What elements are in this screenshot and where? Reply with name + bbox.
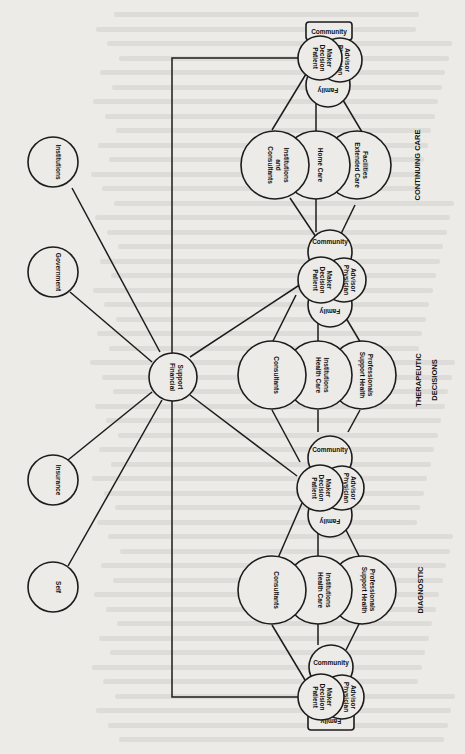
svg-text:Health Care: Health Care — [317, 572, 324, 609]
svg-text:Institutions: Institutions — [283, 147, 290, 182]
patient-decision-maker-node: Patient Decision Maker — [298, 257, 344, 303]
svg-text:Professionals: Professionals — [367, 354, 374, 397]
label-financial-line1: Financial — [169, 363, 176, 391]
edge-financial-institutions — [72, 188, 160, 352]
svg-text:Health Care: Health Care — [315, 357, 322, 394]
svg-text:Community: Community — [312, 446, 348, 454]
patient-decision-maker-node: Patient Decision Maker — [298, 674, 344, 720]
svg-text:Consultants: Consultants — [267, 146, 274, 184]
patient-decision-maker-node: Patient Decision Maker — [297, 465, 343, 511]
svg-text:Support Health: Support Health — [358, 352, 366, 399]
label-financial-line2: Support — [176, 365, 184, 391]
scanned-book-page: Institutions Government Insurance Self F… — [0, 0, 465, 754]
svg-text:Maker: Maker — [326, 688, 333, 707]
edge-td-bottom-1 — [272, 410, 300, 462]
svg-text:Family: Family — [319, 517, 340, 525]
svg-text:Community: Community — [313, 659, 349, 667]
edge-financial-self — [68, 400, 162, 566]
edge-financial-government — [70, 292, 152, 362]
edge-cc-top-1 — [272, 74, 306, 130]
edge-dx-bottom-1 — [272, 625, 305, 680]
diagnostic-nodes: Support Health Professionals Health Care… — [238, 556, 396, 624]
section-label-therapeutic: THERAPEUTIC — [414, 353, 423, 407]
core-cluster-continuing-top: Community Family Physician Advisor Patie… — [298, 22, 362, 107]
edge-td-top-1 — [272, 295, 296, 343]
svg-text:Patient: Patient — [311, 477, 318, 500]
patient-decision-maker-node: Patient Decision Maker — [298, 36, 342, 80]
edge-cc-bottom-1 — [290, 198, 318, 240]
core-cluster-therapeutic: Community Family Physician Advisor Patie… — [298, 230, 366, 327]
svg-text:Consultants: Consultants — [273, 571, 280, 609]
label-government: Government — [55, 253, 62, 292]
edge-financial-insurance — [68, 392, 152, 460]
node-financial-support: Financial Support — [149, 353, 197, 401]
svg-text:and: and — [275, 159, 282, 171]
therapeutic-nodes: Support Health Professionals Health Care… — [238, 341, 396, 409]
svg-text:Community: Community — [312, 238, 348, 246]
svg-text:Advisor: Advisor — [350, 476, 357, 501]
patient-care-network-diagram: Institutions Government Insurance Self F… — [0, 0, 465, 754]
node-insurance: Insurance — [28, 455, 78, 505]
svg-text:Facilities: Facilities — [362, 151, 369, 179]
svg-text:Advisor: Advisor — [350, 685, 357, 710]
node-government: Government — [28, 247, 78, 297]
svg-text:Patient: Patient — [312, 47, 319, 70]
node-cc-consultants-institutions: Consultants and Institutions — [241, 131, 309, 199]
svg-text:Maker: Maker — [325, 479, 332, 498]
node-td-consultants: Consultants — [238, 341, 306, 409]
svg-text:Consultants: Consultants — [273, 356, 280, 394]
svg-text:Family: Family — [319, 307, 340, 315]
edge-td-bottom-3 — [348, 410, 360, 432]
edge-dx-bottom-3 — [346, 622, 360, 650]
svg-text:Institutions: Institutions — [325, 572, 332, 607]
core-cluster-diagnostic-bottom: Family Community Physician Advisor Patie… — [298, 645, 364, 730]
edge-dx-top-1 — [278, 503, 302, 558]
svg-text:Advisor: Advisor — [344, 48, 351, 73]
label-insurance: Insurance — [55, 465, 62, 496]
svg-text:Decision: Decision — [319, 44, 326, 71]
node-dx-consultants: Consultants — [238, 556, 306, 624]
svg-text:Support Health: Support Health — [360, 567, 368, 614]
svg-text:Advisor: Advisor — [350, 268, 357, 293]
svg-text:Decision: Decision — [319, 683, 326, 710]
continuing-care-nodes: Extended Care Facilities Home Care Consu… — [241, 131, 391, 199]
section-label-decisions: DECISIONS — [430, 359, 439, 400]
svg-text:Maker: Maker — [326, 271, 333, 290]
node-self: Self — [28, 562, 78, 612]
section-label-diagnostic: DIAGNOSTIC — [416, 566, 425, 614]
svg-text:Institutions: Institutions — [323, 357, 330, 392]
svg-text:Professionals: Professionals — [369, 569, 376, 612]
core-cluster-diagnostic: Community Family Physician Advisor Patie… — [297, 436, 364, 537]
label-self: Self — [55, 581, 62, 594]
svg-text:Patient: Patient — [312, 269, 319, 292]
svg-text:Community: Community — [311, 28, 347, 36]
label-institutions: Institutions — [55, 144, 62, 179]
svg-text:Extended Care: Extended Care — [354, 142, 361, 188]
svg-text:Family: Family — [317, 86, 338, 94]
svg-text:Maker: Maker — [326, 49, 333, 68]
node-institutions: Institutions — [28, 137, 78, 187]
svg-text:Decision: Decision — [318, 474, 325, 501]
svg-text:Home Care: Home Care — [317, 148, 324, 183]
svg-text:Patient: Patient — [312, 686, 319, 709]
svg-text:Decision: Decision — [319, 266, 326, 293]
section-label-continuing-care: CONTINUING CARE — [413, 130, 422, 201]
